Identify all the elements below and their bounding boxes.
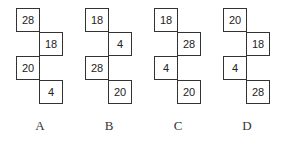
option-label: A xyxy=(26,118,54,134)
option-b: 18 4 28 20 B xyxy=(85,8,133,138)
cube-face: 18 xyxy=(154,8,178,32)
cube-face: 4 xyxy=(108,32,132,56)
option-label: B xyxy=(95,118,123,134)
option-label: C xyxy=(164,118,192,134)
cube-face: 28 xyxy=(16,8,40,32)
option-a: 28 18 20 4 A xyxy=(16,8,64,138)
cube-face: 28 xyxy=(85,56,109,80)
option-label: D xyxy=(233,118,261,134)
cube-face: 20 xyxy=(223,8,247,32)
cube-face: 18 xyxy=(246,32,270,56)
cube-face: 28 xyxy=(246,80,270,104)
cube-face: 4 xyxy=(39,80,63,104)
cube-face: 18 xyxy=(39,32,63,56)
option-d: 20 18 4 28 D xyxy=(223,8,271,138)
cube-face: 4 xyxy=(223,56,247,80)
option-c: 18 28 4 20 C xyxy=(154,8,202,138)
cube-face: 20 xyxy=(177,80,201,104)
cube-face: 28 xyxy=(177,32,201,56)
cube-face: 20 xyxy=(108,80,132,104)
cube-face: 4 xyxy=(154,56,178,80)
cube-face: 20 xyxy=(16,56,40,80)
cube-face: 18 xyxy=(85,8,109,32)
